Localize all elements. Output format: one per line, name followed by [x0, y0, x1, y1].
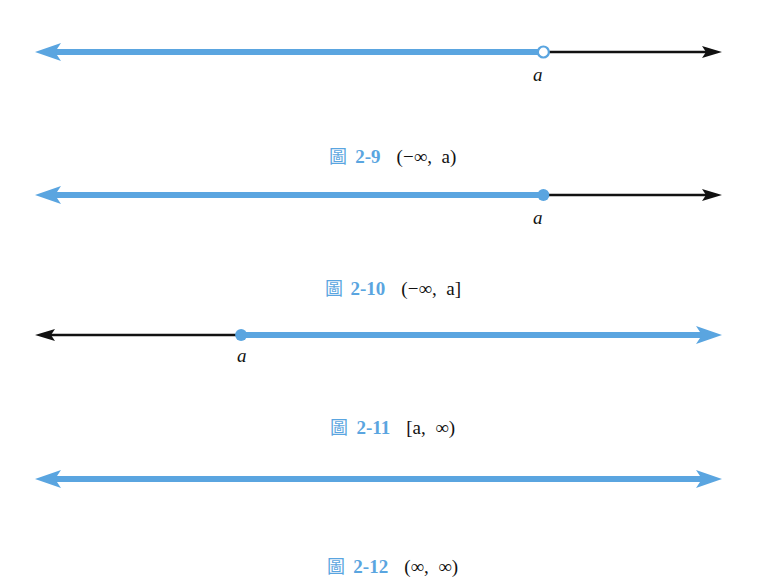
open-endpoint-marker: [538, 47, 549, 58]
figure-char: 圖: [325, 278, 343, 299]
interval-notation: (−∞, a]: [401, 278, 461, 299]
closed-endpoint-marker: [537, 189, 549, 201]
closed-endpoint-marker: [235, 329, 247, 341]
figure-number: 2-11: [356, 417, 390, 438]
figure-number: 2-12: [353, 556, 388, 577]
point-label-a-fig-2-11: a: [237, 345, 247, 367]
interval-notation: [a, ∞): [406, 417, 455, 438]
figure-char: 圖: [330, 417, 348, 438]
figure-char: 圖: [329, 146, 347, 167]
caption-fig-2-9: 圖2-9(−∞, a): [0, 120, 776, 168]
figure-char: 圖: [327, 556, 345, 577]
caption-fig-2-10: 圖2-10(−∞, a]: [0, 252, 776, 300]
figure-number: 2-9: [355, 146, 380, 167]
interval-notation: (−∞, a): [397, 146, 457, 167]
interval-notation: (∞, ∞): [404, 556, 458, 577]
caption-fig-2-12: 圖2-12(∞, ∞): [0, 530, 776, 578]
figure-number: 2-10: [351, 278, 386, 299]
point-label-a-fig-2-10: a: [533, 207, 543, 229]
point-label-a-fig-2-9: a: [533, 64, 543, 86]
caption-fig-2-11: 圖2-11[a, ∞): [0, 391, 776, 439]
